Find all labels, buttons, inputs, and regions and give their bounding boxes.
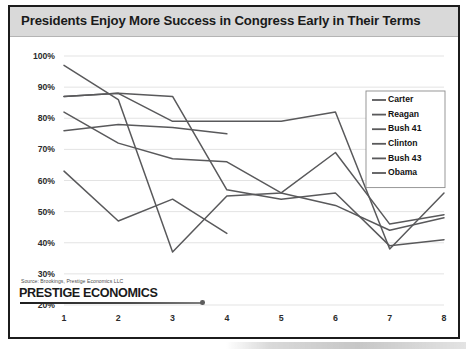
slide-title-bar: Presidents Enjoy More Success in Congres… [10, 7, 458, 37]
y-axis-tick-label: 40% [38, 238, 56, 248]
legend-label-reagan: Reagan [388, 109, 419, 119]
bottom-smudge [226, 342, 466, 349]
y-axis-tick-label: 80% [38, 113, 56, 123]
legend-label-bush-43: Bush 43 [388, 153, 422, 163]
x-axis-tick-label: 5 [279, 313, 284, 323]
y-axis-tick-label: 60% [38, 176, 56, 186]
logo-dot-icon [200, 300, 205, 305]
logo-rule [20, 302, 203, 304]
x-axis-tick-label: 1 [62, 313, 67, 323]
x-axis-tick-label: 2 [116, 313, 121, 323]
x-axis-tick-label: 6 [333, 313, 338, 323]
x-axis-tick-label: 8 [442, 313, 447, 323]
logo-wordmark: PRESTIGE ECONOMICS [19, 286, 219, 300]
prestige-economics-logo: PRESTIGE ECONOMICS [19, 286, 219, 300]
y-axis-tick-label: 50% [38, 207, 56, 217]
legend-label-clinton: Clinton [388, 138, 418, 148]
y-axis-tick-label: 100% [33, 51, 55, 61]
x-axis-tick-label: 4 [224, 313, 229, 323]
y-axis-tick-label: 70% [38, 144, 56, 154]
legend-label-bush-41: Bush 41 [388, 123, 422, 133]
slide-frame: Presidents Enjoy More Success in Congres… [8, 5, 460, 339]
legend-label-carter: Carter [388, 94, 414, 104]
bottom-strip [0, 341, 470, 351]
legend-label-obama: Obama [388, 167, 417, 177]
x-axis-tick-label: 7 [387, 313, 392, 323]
page-title: Presidents Enjoy More Success in Congres… [21, 13, 420, 28]
y-axis-tick-label: 90% [38, 82, 56, 92]
x-axis-tick-label: 3 [170, 313, 175, 323]
source-note: Source: Brookings, Prestige Economics LL… [21, 278, 123, 284]
